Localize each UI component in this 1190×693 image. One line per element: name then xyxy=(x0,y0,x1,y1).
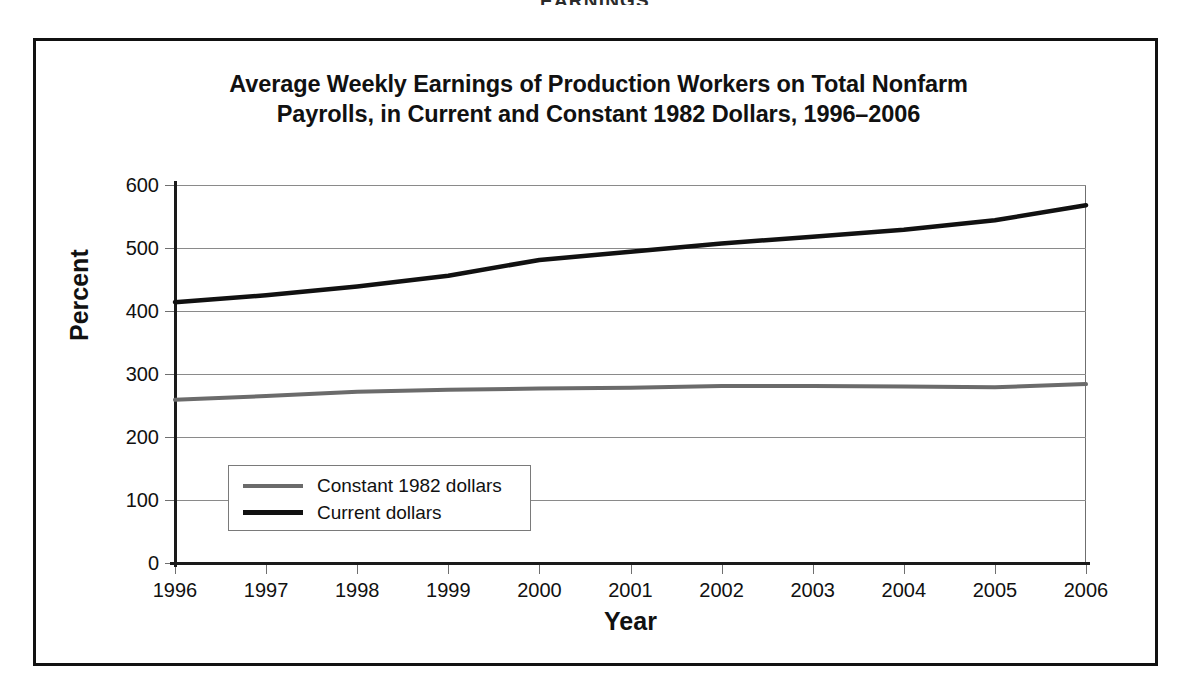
x-tick-label-2005: 2005 xyxy=(960,579,1030,602)
x-tick-label-2000: 2000 xyxy=(504,579,574,602)
x-tick-label-2001: 2001 xyxy=(596,579,666,602)
x-tick-label-1996: 1996 xyxy=(140,579,210,602)
legend-item-current-dollars: Current dollars xyxy=(229,499,530,526)
legend-label-current-dollars: Current dollars xyxy=(317,502,442,524)
chart-title-line-2: Payrolls, in Current and Constant 1982 D… xyxy=(96,99,1101,129)
chart-title-line-1: Average Weekly Earnings of Production Wo… xyxy=(96,69,1101,99)
y-axis-title: Percent xyxy=(65,249,94,341)
x-tick-label-2003: 2003 xyxy=(778,579,848,602)
y-tick-label-400: 400 xyxy=(101,301,159,321)
running-header: EARNINGS xyxy=(0,0,1190,5)
legend-swatch-current-dollars xyxy=(243,510,303,515)
legend-label-constant-dollars: Constant 1982 dollars xyxy=(317,475,502,497)
plot-area: 0100200300400500600 19961997199819992000… xyxy=(175,185,1086,563)
x-tick-label-2004: 2004 xyxy=(869,579,939,602)
x-tick-label-2006: 2006 xyxy=(1051,579,1121,602)
y-tick-label-200: 200 xyxy=(101,427,159,447)
x-tick-label-2002: 2002 xyxy=(687,579,757,602)
series-line-current-dollars xyxy=(175,205,1086,302)
figure-frame: Average Weekly Earnings of Production Wo… xyxy=(33,38,1158,666)
y-tick-label-100: 100 xyxy=(101,490,159,510)
x-tick-labels: 1996199719981999200020012002200320042005… xyxy=(175,563,1086,593)
y-tick-labels: 0100200300400500600 xyxy=(101,185,159,563)
x-tick-label-1999: 1999 xyxy=(413,579,483,602)
y-tick-label-0: 0 xyxy=(101,553,159,573)
x-tick-label-1997: 1997 xyxy=(231,579,301,602)
series-line-constant-1982-dollars xyxy=(175,384,1086,400)
y-tick-label-600: 600 xyxy=(101,175,159,195)
legend-swatch-constant-dollars xyxy=(243,484,303,488)
legend-item-constant-dollars: Constant 1982 dollars xyxy=(229,472,530,499)
legend: Constant 1982 dollars Current dollars xyxy=(228,465,531,531)
x-axis-title: Year xyxy=(175,607,1086,636)
y-tick-label-500: 500 xyxy=(101,238,159,258)
x-tick-label-1998: 1998 xyxy=(322,579,392,602)
chart-title: Average Weekly Earnings of Production Wo… xyxy=(96,69,1101,129)
y-tick-label-300: 300 xyxy=(101,364,159,384)
